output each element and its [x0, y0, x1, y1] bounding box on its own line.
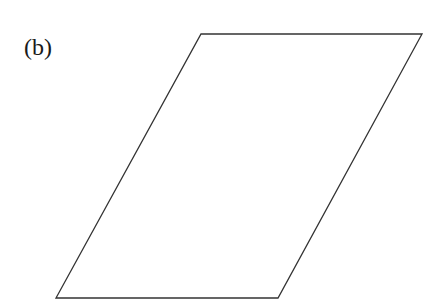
- parallelogram-shape: [56, 34, 422, 298]
- figure-canvas: [0, 0, 440, 302]
